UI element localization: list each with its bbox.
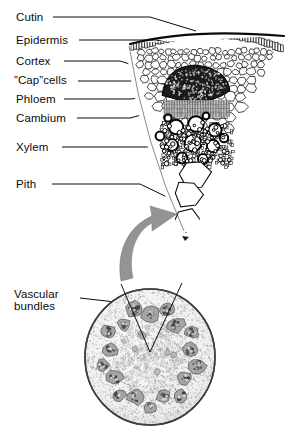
leader-cutin-2 bbox=[150, 17, 196, 31]
wedge-tissue bbox=[120, 30, 290, 245]
figure-root: Cutin Epidermis Cortex ”Cap”cells Phloem… bbox=[0, 0, 290, 437]
diagram-artwork bbox=[0, 0, 290, 437]
apex-tick bbox=[182, 236, 189, 241]
stem-cross-section bbox=[85, 283, 216, 426]
magnification-arrow bbox=[120, 206, 177, 281]
